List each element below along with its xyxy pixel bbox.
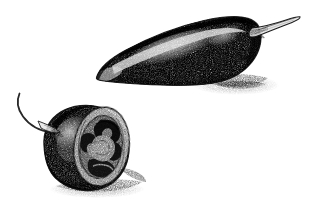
illustration-canvas: Jalapeno Pepper Botanical Illustration — [0, 0, 318, 207]
jalapeno-illustration-svg — [0, 0, 318, 207]
